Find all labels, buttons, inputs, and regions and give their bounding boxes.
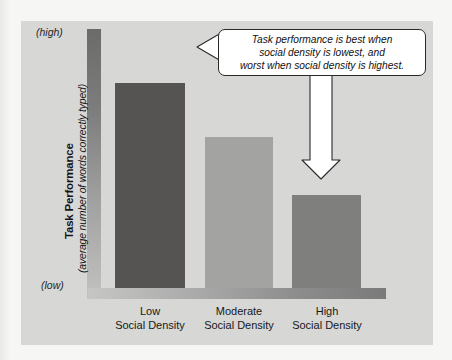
x-axis-label-moderate-line2: Social Density: [189, 318, 289, 332]
bar-low-social-density: [115, 83, 185, 288]
annotation-callout: Task performance is best when social den…: [218, 29, 426, 76]
annotation-line-1: Task performance is best when: [240, 33, 404, 46]
y-axis-low-label: (low): [41, 279, 64, 291]
x-axis-label-low-line2: Social Density: [100, 318, 200, 332]
x-axis-label-low-line1: Low: [100, 304, 200, 318]
x-axis-label-low: Low Social Density: [100, 304, 200, 332]
bar-moderate-social-density: [205, 137, 273, 288]
page-edge-shading: [0, 0, 10, 360]
annotation-line-3: worst when social density is highest.: [240, 59, 404, 72]
chart-figure: (high) (low) Task Performance (average n…: [0, 0, 452, 360]
x-axis-label-high-line2: Social Density: [277, 318, 377, 332]
annotation-line-2: social density is lowest, and: [240, 46, 404, 59]
chart-panel: (high) (low) Task Performance (average n…: [21, 21, 433, 345]
x-axis-gradient-bar: [88, 288, 386, 299]
annotation-callout-text: Task performance is best when social den…: [234, 33, 410, 73]
x-axis-label-high-line1: High: [277, 304, 377, 318]
y-axis-high-label: (high): [36, 26, 63, 38]
x-axis-label-moderate: Moderate Social Density: [189, 304, 289, 332]
x-axis-label-high: High Social Density: [277, 304, 377, 332]
down-arrow-icon: [302, 71, 340, 179]
y-axis-subtitle: (average number of words correctly typed…: [76, 84, 88, 273]
bar-high-social-density: [292, 195, 361, 288]
x-axis-label-moderate-line1: Moderate: [189, 304, 289, 318]
plot-area: (high) (low) Task Performance (average n…: [21, 21, 433, 345]
y-axis-gradient-bar: [87, 29, 101, 299]
y-axis-title: Task Performance: [63, 143, 75, 239]
